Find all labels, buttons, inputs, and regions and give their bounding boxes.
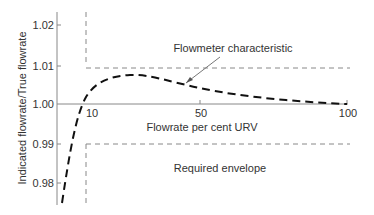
curve-label: Flowmeter characteristic [173,42,293,54]
y-tick-label: 1.02 [33,19,54,31]
required-envelope [86,12,350,205]
y-tick-label: 1.00 [33,98,54,110]
flowmeter-curve [62,75,347,203]
y-tick-label: 0.99 [33,138,54,150]
chart: 1.02 1.01 1.00 0.99 0.98 Indicated flowr… [0,0,374,215]
x-tick-label: 100 [339,107,357,119]
x-tick-label: 50 [195,107,207,119]
x-axis-label: Flowrate per cent URV [146,121,258,133]
y-tick-label: 0.98 [33,177,54,189]
y-axis-label: Indicated flowrate/True flowrate [16,31,28,184]
envelope-label: Required envelope [174,162,266,174]
x-tick-label: 10 [86,107,98,119]
y-tick-label: 1.01 [33,60,54,72]
